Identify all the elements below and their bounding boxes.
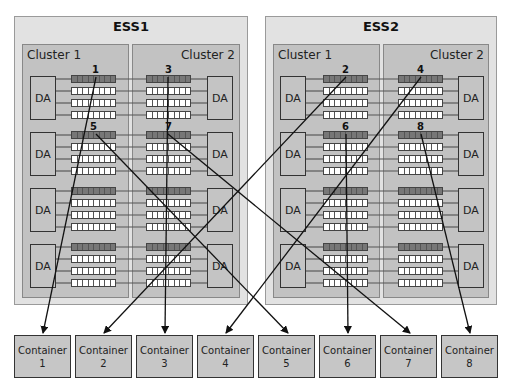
stream-number-5: 5 [90,121,97,132]
stripe-row [398,223,443,231]
container-5: Container5 [258,335,315,378]
stripe-row [398,143,443,151]
stripe-row [71,167,116,175]
stripe-header [323,75,368,83]
stripe-row [71,255,116,263]
stripe-row [146,211,191,219]
stripe-row [146,155,191,163]
stripe-row [71,111,116,119]
stripe-header [398,243,443,251]
da-box: DA [30,132,56,176]
stripe-header [146,131,191,139]
stripe-row [398,211,443,219]
da-box: DA [30,76,56,120]
container-number: 5 [259,357,314,370]
da-box: DA [207,76,233,120]
stripe-header [71,243,116,251]
stripe-row [398,267,443,275]
stripe-row [146,255,191,263]
stripe-row [323,143,368,151]
container-label: Container [137,344,192,357]
stripe-row [146,99,191,107]
stream-number-3: 3 [165,64,172,75]
stream-number-8: 8 [417,121,424,132]
stripe-row [398,279,443,287]
container-number: 6 [320,357,375,370]
da-box: DA [458,76,484,120]
container-label: Container [442,344,497,357]
stripe-row [323,87,368,95]
stream-number-4: 4 [417,64,424,75]
container-6: Container6 [319,335,376,378]
stripe-row [71,267,116,275]
da-box: DA [30,188,56,232]
container-2: Container2 [75,335,132,378]
da-box: DA [280,76,306,120]
stripe-row [71,87,116,95]
stripe-row [146,279,191,287]
stripe-header [71,187,116,195]
stripe-row [323,279,368,287]
stripe-row [323,255,368,263]
da-box: DA [280,188,306,232]
container-number: 3 [137,357,192,370]
da-box: DA [30,244,56,288]
da-box: DA [458,132,484,176]
stripe-row [398,87,443,95]
container-label: Container [198,344,253,357]
container-number: 1 [15,357,70,370]
container-number: 8 [442,357,497,370]
container-label: Container [381,344,436,357]
da-box: DA [458,188,484,232]
container-7: Container7 [380,335,437,378]
stripe-row [146,87,191,95]
stripe-row [323,267,368,275]
stripe-row [323,111,368,119]
stripe-row [71,99,116,107]
da-box: DA [207,244,233,288]
stream-number-6: 6 [342,121,349,132]
container-label: Container [320,344,375,357]
container-1: Container1 [14,335,71,378]
da-box: DA [458,244,484,288]
stripe-row [323,167,368,175]
stripe-row [146,199,191,207]
container-number: 4 [198,357,253,370]
container-label: Container [76,344,131,357]
container-8: Container8 [441,335,498,378]
stripe-header [398,187,443,195]
container-4: Container4 [197,335,254,378]
da-box: DA [207,188,233,232]
stripe-row [146,267,191,275]
da-box: DA [280,244,306,288]
stripe-row [323,211,368,219]
stream-number-2: 2 [342,64,349,75]
stream-number-7: 7 [165,121,172,132]
stripe-row [398,199,443,207]
stripe-row [398,255,443,263]
stripe-row [398,111,443,119]
stripe-header [323,131,368,139]
container-number: 2 [76,357,131,370]
stripe-row [146,111,191,119]
stripe-header [398,75,443,83]
stripe-row [71,223,116,231]
stripe-row [71,211,116,219]
da-wiring [0,0,512,391]
stripe-row [71,143,116,151]
stripe-row [323,99,368,107]
stripe-row [146,143,191,151]
da-box: DA [207,132,233,176]
stripe-row [146,223,191,231]
stripe-header [71,131,116,139]
stripe-header [146,75,191,83]
container-label: Container [259,344,314,357]
stripe-header [71,75,116,83]
container-number: 7 [381,357,436,370]
container-3: Container3 [136,335,193,378]
stripe-row [146,167,191,175]
stripe-row [323,199,368,207]
da-box: DA [280,132,306,176]
stream-number-1: 1 [92,64,99,75]
stripe-header [398,131,443,139]
